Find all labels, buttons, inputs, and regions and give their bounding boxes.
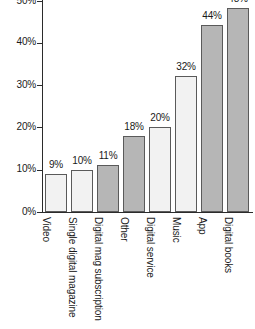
y-tick-label-20: 20% — [17, 122, 36, 132]
bar-value-video: 9% — [49, 160, 63, 170]
bar-value-other: 18% — [124, 122, 143, 132]
x-label-app: App — [197, 217, 207, 235]
y-tick-label-50: 50% — [17, 0, 36, 6]
bar-music[interactable] — [175, 76, 197, 212]
bar-group-app: 44% — [201, 0, 223, 212]
x-label-slot-digital-mag-subscription: Digital mag subscription — [97, 214, 119, 329]
bar-group-single-digital-magazine: 10% — [71, 0, 93, 212]
x-label-slot-digital-service: Digital service — [149, 214, 171, 329]
bar-value-digital-mag-subscription: 11% — [99, 151, 118, 161]
x-label-video: Video — [41, 217, 51, 242]
x-label-slot-digital-books: Digital books — [227, 214, 249, 329]
bar-group-digital-service: 20% — [149, 0, 171, 212]
bar-value-music: 32% — [176, 62, 195, 72]
bar-group-video: 9% — [45, 0, 67, 212]
y-tick-label-30: 30% — [17, 80, 36, 90]
y-tick-label-0: 0% — [22, 207, 36, 217]
x-label-single-digital-magazine: Single digital magazine — [67, 217, 77, 318]
bar-digital-service[interactable] — [149, 127, 171, 212]
x-label-digital-mag-subscription: Digital mag subscription — [93, 217, 103, 321]
x-label-slot-single-digital-magazine: Single digital magazine — [71, 214, 93, 329]
bar-value-app: 44% — [202, 11, 221, 21]
x-label-slot-video: Video — [45, 214, 67, 329]
x-label-slot-other: Other — [123, 214, 145, 329]
y-axis: 50% 40% 30% 20% 10% 0% — [0, 0, 40, 329]
plot-area: 9% 10% 11% 18% 20% 32% 44% 48% — [43, 0, 253, 212]
bar-group-digital-mag-subscription: 11% — [97, 0, 119, 212]
bar-value-digital-books: 48% — [228, 0, 247, 4]
bar-digital-mag-subscription[interactable] — [97, 165, 119, 212]
bar-group-digital-books: 48% — [227, 0, 249, 212]
x-label-slot-music: Music — [175, 214, 197, 329]
bar-value-single-digital-magazine: 10% — [72, 156, 91, 166]
y-tick-label-40: 40% — [17, 37, 36, 47]
y-tick-label-10: 10% — [17, 164, 36, 174]
x-label-slot-app: App — [201, 214, 223, 329]
x-label-digital-service: Digital service — [145, 217, 155, 278]
x-axis-labels: Video Single digital magazine Digital ma… — [43, 214, 253, 329]
bar-other[interactable] — [123, 136, 145, 212]
x-label-digital-books: Digital books — [223, 217, 233, 273]
bar-group-other: 18% — [123, 0, 145, 212]
bar-group-music: 32% — [175, 0, 197, 212]
bar-single-digital-magazine[interactable] — [71, 170, 93, 212]
x-label-other: Other — [119, 217, 129, 242]
x-axis-line — [42, 212, 253, 213]
bar-digital-books[interactable] — [227, 8, 249, 212]
bar-value-digital-service: 20% — [150, 113, 169, 123]
x-label-music: Music — [171, 217, 181, 243]
bar-chart: 50% 40% 30% 20% 10% 0% 9% 10% 11% 18% — [0, 0, 255, 329]
bar-app[interactable] — [201, 25, 223, 212]
bar-video[interactable] — [45, 174, 67, 212]
